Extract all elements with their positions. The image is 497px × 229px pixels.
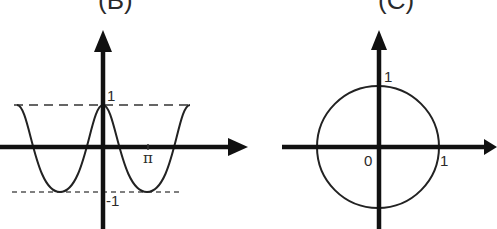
y-axis-arrow-icon (94, 30, 112, 52)
panel-c-graph (282, 30, 497, 229)
label-circle-x-one: 1 (440, 153, 448, 168)
label-origin: 0 (364, 153, 372, 168)
label-y-min: -1 (106, 193, 119, 208)
label-pi: π (143, 151, 153, 166)
x-axis-arrow-icon (484, 139, 497, 155)
panel-b-graph (0, 30, 248, 229)
x-axis-arrow-icon (228, 138, 248, 156)
diagram-canvas (0, 0, 497, 229)
label-circle-y-one: 1 (384, 69, 392, 84)
label-y-max: 1 (107, 88, 115, 103)
y-axis-arrow-icon (371, 30, 387, 50)
